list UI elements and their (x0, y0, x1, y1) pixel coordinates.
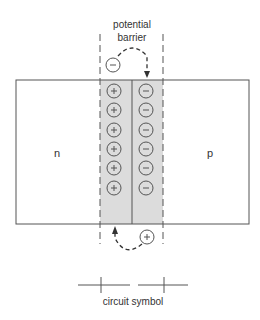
n-region-label: n (54, 147, 60, 159)
arrowhead-icon (144, 71, 150, 78)
p-region-label: p (207, 147, 213, 159)
free-hole-icon (140, 230, 154, 244)
circuit-symbol (78, 277, 188, 293)
pn-junction-diagram: potential barrier n p circuit symbol (0, 0, 260, 320)
circuit-symbol-caption: circuit symbol (103, 296, 164, 307)
barrier-label: barrier (118, 32, 148, 43)
arrowhead-icon (112, 226, 118, 234)
free-electron-icon (106, 58, 120, 72)
potential-label: potential (113, 19, 151, 30)
electron-arrow-icon (118, 48, 147, 72)
hole-arrow-icon (115, 233, 142, 250)
